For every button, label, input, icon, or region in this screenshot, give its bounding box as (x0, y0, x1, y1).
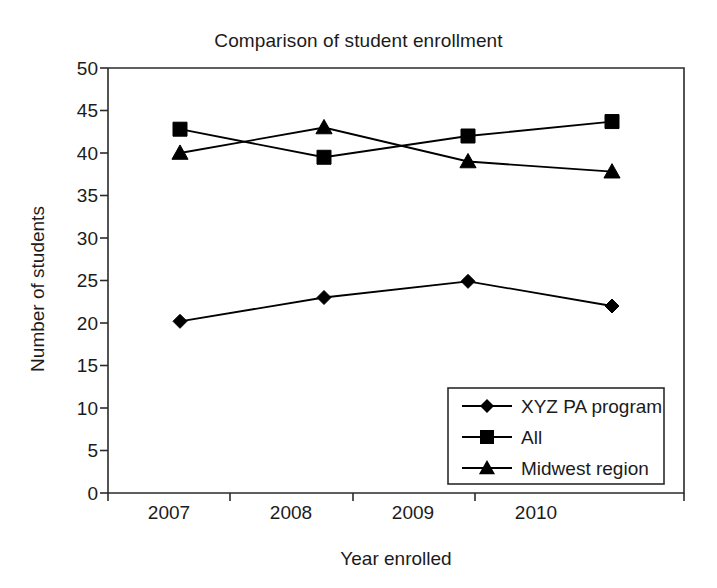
series-square (173, 115, 619, 165)
series-diamond (173, 274, 619, 328)
legend-item-label-midwest-region[interactable]: Midwest region (521, 458, 649, 480)
diamond-marker-icon (605, 299, 619, 313)
diamond-marker-icon (173, 314, 187, 328)
square-marker-icon (461, 129, 475, 143)
series-line (180, 281, 612, 321)
series-line (180, 128, 612, 172)
triangle-marker-icon (316, 119, 332, 133)
legend-item-label-xyz-pa-program[interactable]: XYZ PA program (521, 396, 662, 418)
square-marker-icon (173, 122, 187, 136)
series-line (180, 122, 612, 158)
data-series-layer (172, 115, 620, 329)
y-axis-ticks (100, 68, 108, 493)
diamond-marker-icon (461, 274, 475, 288)
diamond-marker-icon (317, 291, 331, 305)
legend-item-label-all[interactable]: All (521, 427, 542, 449)
square-marker-icon (480, 430, 494, 444)
x-axis-ticks (108, 493, 684, 501)
square-marker-icon (605, 115, 619, 129)
plot-area (0, 0, 717, 588)
chart-figure: Comparison of student enrollment Number … (0, 0, 717, 588)
square-marker-icon (317, 150, 331, 164)
